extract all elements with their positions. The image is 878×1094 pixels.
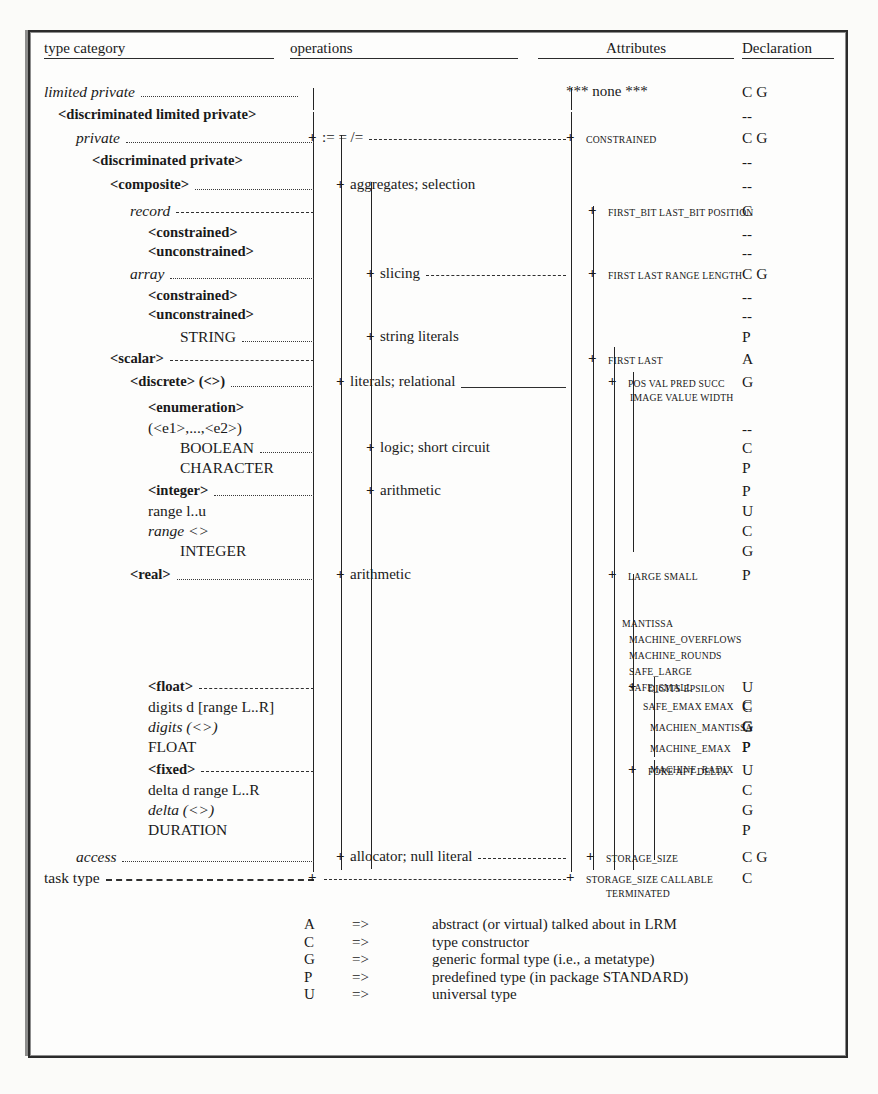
scanned-page: type category operations Attributes Decl… [0, 0, 878, 1094]
attributes-label-line2: TERMINATED [606, 887, 670, 900]
type-category-label: <discrete> (<>) [130, 372, 225, 391]
legend-key: P [304, 969, 312, 986]
attributes-label: POS VAL PRED SUCC [628, 377, 725, 390]
operations-label: allocator; null literal [350, 847, 472, 866]
declaration-code: P [742, 565, 751, 584]
leader-dashes [176, 212, 314, 213]
type-category-label: private [76, 128, 120, 147]
declaration-code: C [742, 521, 752, 540]
type-category-label: <enumeration> [148, 398, 244, 417]
header-type-category: type category [44, 40, 274, 59]
operations-to-attributes-connector [478, 858, 566, 859]
type-category-label: <discriminated limited private> [58, 105, 256, 124]
operations-junction-plus: + [366, 264, 375, 283]
leader-dashes [170, 360, 314, 361]
legend-description: universal type [432, 986, 517, 1003]
type-category-label: delta d range L..R [148, 780, 259, 799]
operations-junction-plus: + [366, 327, 375, 346]
operations-to-attributes-connector [461, 387, 566, 388]
legend-arrow-icon: => [352, 969, 369, 986]
attribute-item: SAFE_SMALL [629, 681, 692, 694]
declaration-code: C [742, 868, 752, 887]
ops-vline-aggregates [371, 182, 372, 869]
operations-junction-plus: + [366, 438, 375, 457]
operations-label: logic; short circuit [380, 438, 490, 457]
declaration-code: U [742, 677, 753, 696]
leader-dots [126, 142, 314, 143]
attributes-junction-plus: + [588, 264, 597, 283]
operations-junction-plus: + [336, 175, 345, 194]
attributes-label: CONSTRAINED [586, 133, 657, 146]
operations-junction-plus: + [336, 565, 345, 584]
type-category-label: STRING [180, 327, 236, 346]
legend-description: predefined type (in package STANDARD) [432, 969, 688, 986]
type-category-label: record [130, 201, 170, 220]
type-category-label: BOOLEAN [180, 438, 254, 457]
leader-dots [122, 861, 314, 862]
legend-key: G [304, 951, 315, 968]
attribute-item: MACHINE_OVERFLOWS [629, 633, 742, 646]
leader-dashes [199, 688, 314, 689]
attributes-label: FIRST LAST RANGE LENGTH [608, 269, 742, 282]
type-category-label: INTEGER [180, 541, 246, 560]
attr-vline-scalar [614, 347, 615, 870]
declaration-code: C [742, 695, 752, 714]
attributes-label: FIRST LAST [608, 354, 663, 367]
legend-key: C [304, 934, 314, 951]
leader-dots [231, 386, 314, 387]
ops-vline-composite [341, 135, 342, 870]
type-category-label: task type [44, 868, 100, 887]
declaration-code: G [742, 372, 753, 391]
attributes-label-line2: IMAGE VALUE WIDTH [630, 391, 734, 404]
type-category-label: digits d [range L..R] [148, 697, 274, 716]
operations-to-attributes-connector [426, 275, 566, 276]
declaration-code: U [742, 760, 753, 779]
legend-key: U [304, 986, 315, 1003]
declaration-code: C [742, 780, 752, 799]
declaration-code: P [742, 481, 751, 500]
attributes-junction-plus: + [586, 847, 595, 866]
header-operations: operations [290, 40, 518, 59]
legend-key: A [304, 916, 315, 933]
operations-junction-plus: + [336, 372, 345, 391]
type-category-label: (<e1>,...,<e2>) [148, 418, 242, 437]
type-category-label: range l..u [148, 501, 206, 520]
type-category-label: <scalar> [110, 349, 164, 368]
type-category-label: <float> [148, 677, 193, 696]
legend-description: type constructor [432, 934, 529, 951]
legend-description: abstract (or virtual) talked about in LR… [432, 916, 677, 933]
declaration-code: -- [742, 177, 752, 196]
declaration-code: -- [742, 307, 752, 326]
operations-junction-plus: + [366, 481, 375, 500]
attributes-label: STORAGE_SIZE CALLABLE [586, 873, 713, 886]
declaration-code: C G [742, 82, 767, 101]
type-category-label: <unconstrained> [148, 305, 254, 324]
attribute-item: MACHINE_EMAX [650, 742, 731, 755]
header-declaration: Declaration [742, 40, 834, 59]
type-category-label: range <> [148, 521, 209, 540]
declaration-code: C G [742, 264, 767, 283]
operations-label: aggregates; selection [350, 175, 475, 194]
operations-label: string literals [380, 327, 459, 346]
attributes-junction-plus: + [566, 128, 575, 147]
declaration-code: C G [742, 847, 767, 866]
legend-description: generic formal type (i.e., a metatype) [432, 951, 654, 968]
leader-dashes [106, 879, 314, 881]
operations-junction-plus: + [336, 847, 345, 866]
declaration-code: P [742, 820, 751, 839]
leader-dots [141, 96, 298, 97]
operations-label: literals; relational [350, 372, 455, 391]
attributes-junction-plus: + [588, 349, 597, 368]
type-category-label: digits (<>) [148, 717, 218, 736]
operations-label: arithmetic [350, 565, 411, 584]
declaration-code: G [742, 716, 753, 735]
type-category-label: access [76, 847, 116, 866]
type-category-label: CHARACTER [180, 458, 274, 477]
leader-dots [214, 495, 314, 496]
type-category-label: delta (<>) [148, 800, 214, 819]
leader-dots [170, 278, 314, 279]
attributes-label: *** none *** [566, 82, 648, 101]
legend-arrow-icon: => [352, 986, 369, 1003]
declaration-code: C [742, 201, 752, 220]
attributes-junction-plus: + [608, 372, 617, 391]
